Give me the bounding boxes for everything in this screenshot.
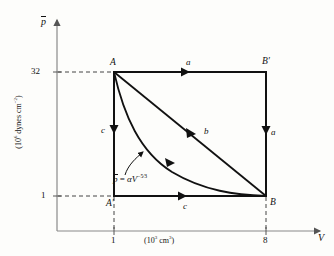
x-tick-label-8: 8: [263, 236, 268, 245]
y-axis-symbol-text: p: [41, 16, 46, 27]
path-label-a-top: a: [186, 58, 191, 67]
x-unit-mid: cm: [157, 236, 169, 245]
adiabat-equation-annotation: p = αV−5⁄3: [113, 174, 147, 184]
point-label-B-prime: B′: [262, 57, 270, 67]
path-label-a-right: a: [271, 128, 276, 137]
x-axis-symbol: V: [318, 233, 324, 243]
equation-exponent-den: 3: [144, 173, 147, 179]
x-axis-unit-label: (103 cm3): [144, 237, 174, 245]
pv-diagram-figure: p (106 dynes cm−2) 32 1 1 8 (103 cm3) V …: [0, 0, 334, 256]
arrow-a-right: [262, 126, 271, 135]
equation-exponent: −5⁄3: [137, 173, 147, 179]
x-unit-close: ): [171, 236, 174, 245]
guide-lines: [58, 72, 266, 230]
y-unit-exp2: −2: [13, 98, 18, 103]
path-label-c-left: c: [101, 126, 105, 135]
arrow-b-diagonal: [186, 128, 196, 138]
equation-equals: =: [118, 174, 128, 184]
y-tick-label-32: 32: [31, 67, 40, 76]
arrow-c-left: [110, 125, 119, 134]
equation-exponent-num: 5: [140, 173, 143, 179]
arrow-a-top: [181, 68, 190, 77]
annotation-leader-arrow: [125, 152, 143, 175]
point-label-A-prime: A′: [106, 199, 114, 209]
path-label-b: b: [204, 127, 209, 136]
arrow-c-bottom: [178, 192, 187, 201]
arrow-adiabat: [165, 158, 175, 167]
axis-lines: [57, 20, 320, 231]
y-unit-mid: dynes cm: [14, 103, 23, 135]
diagram-canvas: [0, 0, 334, 256]
y-tick-label-1: 1: [41, 191, 46, 200]
y-unit-close: ): [14, 95, 23, 98]
point-label-A: A: [110, 58, 116, 68]
equation-rhs-base: αV: [127, 174, 137, 184]
point-label-B: B: [270, 198, 276, 208]
path-label-c-bottom: c: [183, 202, 187, 211]
x-unit-open: (10: [144, 236, 155, 245]
y-axis-unit-label: (106 dynes cm−2): [15, 77, 23, 167]
x-tick-label-1: 1: [111, 236, 116, 245]
y-axis-symbol: p: [41, 16, 46, 27]
y-unit-open: (10: [14, 138, 23, 149]
tick-marks: [53, 72, 266, 235]
